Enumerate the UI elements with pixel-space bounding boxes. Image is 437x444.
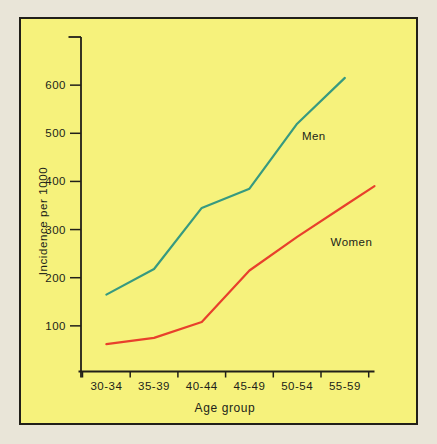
y-tick-label: 500 [45, 127, 66, 139]
men-series-label: Men [302, 130, 326, 142]
y-tick-label: 600 [45, 79, 66, 91]
x-tick-label: 30-34 [90, 380, 122, 392]
page: 10020030040050060030-3435-3940-4445-4950… [0, 0, 437, 444]
x-tick-label: 55-59 [329, 380, 361, 392]
x-tick-label: 35-39 [138, 380, 170, 392]
men-line [106, 78, 345, 295]
x-axis-title: Age group [195, 401, 256, 415]
line-chart: 10020030040050060030-3435-3940-4445-4950… [21, 19, 416, 423]
x-tick-label: 45-49 [233, 380, 265, 392]
x-tick-label: 50-54 [281, 380, 313, 392]
women-line [106, 186, 374, 344]
women-series-label: Women [331, 236, 373, 248]
x-tick-label: 40-44 [186, 380, 218, 392]
y-axis-title: Incidence per 1000 [37, 167, 49, 276]
y-tick-label: 100 [45, 320, 66, 332]
chart-panel: 10020030040050060030-3435-3940-4445-4950… [19, 17, 418, 425]
